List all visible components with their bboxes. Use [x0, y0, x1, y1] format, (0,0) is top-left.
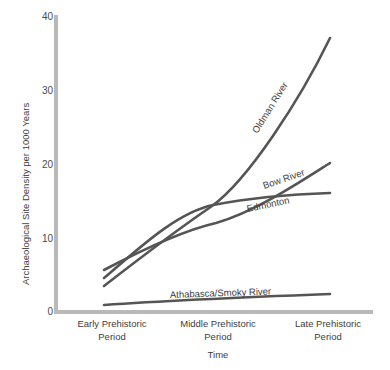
x-tick-label-line1: Late Prehistoric [295, 318, 361, 329]
series-line-edmonton [104, 193, 330, 278]
x-tick-label-line1: Middle Prehistoric [180, 318, 256, 329]
x-axis-title: Time [158, 349, 278, 360]
x-tick-label-line1: Early Prehistoric [77, 318, 146, 329]
x-tick-label-line2: Period [314, 331, 341, 342]
x-tick-label-late-prehistoric-period: Late Prehistoric Period [268, 318, 388, 343]
x-tick-label-line2: Period [98, 331, 125, 342]
chart-container: Archaeological Site Density per 1000 Yea… [0, 0, 390, 370]
x-tick-label-early-prehistoric-period: Early Prehistoric Period [52, 318, 172, 343]
x-tick-label-line2: Period [204, 331, 231, 342]
plot-area [0, 0, 390, 370]
x-tick-label-middle-prehistoric-period: Middle Prehistoric Period [158, 318, 278, 343]
